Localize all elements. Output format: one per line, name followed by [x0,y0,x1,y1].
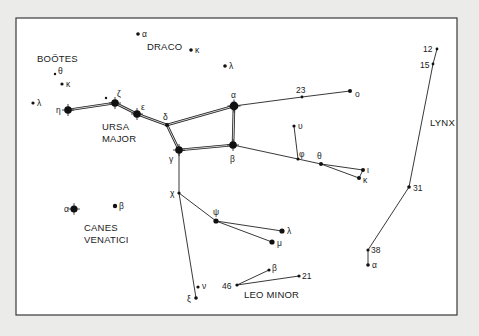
star-dot-icon [31,101,34,104]
star-dot-icon [432,63,435,66]
star-lmi-46 [235,283,238,286]
constellation-label-bootes: BOÖTES [37,53,78,64]
star-dra-kappa [189,48,193,52]
star-label-uma-beta: β [230,154,235,164]
star-dot-icon [177,191,180,194]
star-label-cvn-alpha: α [64,204,69,214]
star-uma-omicron [348,89,352,93]
constellation-label-canes-venatici-1: CANES [84,222,118,233]
star-boo-lambda [31,101,34,104]
star-dot-icon [366,248,369,251]
star-uma-kappa [357,176,361,180]
star-label-uma-delta: δ [163,112,168,122]
star-label-uma-alpha: α [231,90,236,100]
star-dot-icon [279,228,284,233]
star-dot-icon [297,274,300,277]
star-label-lmi-beta: β [272,263,277,273]
star-uma-xi [194,296,198,300]
star-lyn-alpha [366,263,370,267]
star-dra-alpha [136,32,140,36]
star-label-uma-upsilon: υ [298,121,303,131]
constellation-label-draco: DRACO [147,41,182,52]
star-dot-icon [366,263,370,267]
star-label-lyn-38: 38 [371,245,381,255]
star-dot-icon [194,296,198,300]
star-label-uma-epsilon: ε [141,102,145,112]
star-label-uma-zeta: ζ [117,89,121,99]
star-uma-nu [196,285,199,288]
star-dot-icon [407,185,411,189]
star-label-lyn-alpha: α [372,260,377,270]
star-label-dra-alpha: α [142,29,147,39]
star-label-uma-xi: ξ [187,294,191,304]
star-dot-icon [136,32,140,36]
star-label-uma-iota: ι [367,165,369,175]
star-label-uma-theta: θ [317,151,322,161]
constellation-label-ursa-major-2: MAJOR [102,133,136,144]
star-lyn-38 [366,248,369,251]
star-dot-icon [361,168,365,172]
star-dot-icon [60,82,63,85]
star-dot-icon [269,239,274,244]
star-label-uma-chi: χ [170,188,175,198]
star-label-cvn-beta: β [119,201,124,211]
star-dot-icon [113,204,117,208]
star-dot-icon [54,73,56,75]
star-dot-icon [348,89,352,93]
star-uma-theta [319,162,323,166]
star-dot-icon [189,48,193,52]
star-uma-psi [213,218,218,223]
star-lyn-31 [407,185,411,189]
star-label-uma-omicron: ο [355,89,360,99]
star-dot-icon [235,283,238,286]
star-label-uma-23: 23 [296,85,306,95]
star-dot-icon [213,218,218,223]
star-uma-chi [177,191,180,194]
star-lmi-beta [267,268,270,271]
star-uma-80 [105,97,107,99]
star-label-uma-psi: ψ [213,207,219,217]
chart-frame [16,18,457,315]
star-dot-icon [357,176,361,180]
star-dot-icon [105,97,107,99]
star-label-lyn-15: 15 [420,60,430,70]
star-label-boo-theta: θ [58,66,63,76]
star-boo-theta [54,73,56,75]
star-uma-iota [361,168,365,172]
star-label-lyn-31: 31 [413,183,423,193]
star-lyn-12 [436,48,439,51]
star-boo-kappa [60,82,63,85]
star-lyn-15 [432,63,435,66]
star-dot-icon [436,48,439,51]
star-dot-icon [196,285,199,288]
star-label-lmi-21: 21 [302,271,312,281]
star-dra-lambda [223,64,227,68]
star-label-uma-nu: ν [202,281,206,291]
star-label-uma-eta: η [56,105,61,115]
star-dot-icon [319,162,323,166]
star-uma-upsilon [292,124,295,127]
star-cvn-beta [113,204,117,208]
star-dot-icon [165,123,169,127]
star-lmi-21 [297,274,300,277]
star-dot-icon [267,268,270,271]
constellation-label-lynx: LYNX [430,117,455,128]
star-label-uma-mu: μ [277,238,282,248]
constellation-label-ursa-major-1: URSA [102,121,130,132]
star-label-uma-phi: φ [299,149,305,159]
constellation-label-canes-venatici-2: VENATICI [84,234,129,245]
star-label-lmi-46: 46 [222,281,232,291]
star-uma-23 [301,96,304,99]
star-dot-icon [223,64,227,68]
star-label-lyn-12: 12 [423,44,433,54]
constellation-label-leo-minor: LEO MINOR [244,289,299,300]
star-dot-icon [301,96,304,99]
star-uma-lambda [279,228,284,233]
star-chart: ακλθκληζεδαβγ23ουφθικχψλμνξαβ46β21121531… [0,0,479,336]
star-dot-icon [292,124,295,127]
star-uma-mu [269,239,274,244]
star-uma-delta [165,123,169,127]
